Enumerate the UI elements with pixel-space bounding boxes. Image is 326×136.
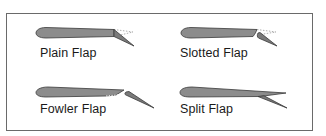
panel-fowler-flap: Fowler Flap bbox=[36, 84, 186, 136]
panel-slotted-flap: Slotted Flap bbox=[181, 24, 326, 82]
plain-flap-label: Plain Flap bbox=[40, 46, 97, 60]
panel-split-flap: Split Flap bbox=[180, 84, 326, 136]
fowler-flap-label: Fowler Flap bbox=[40, 102, 106, 116]
slotted-flap-label: Slotted Flap bbox=[180, 46, 248, 60]
panel-plain-flap: Plain Flap bbox=[36, 24, 186, 82]
split-flap-label: Split Flap bbox=[180, 102, 233, 116]
